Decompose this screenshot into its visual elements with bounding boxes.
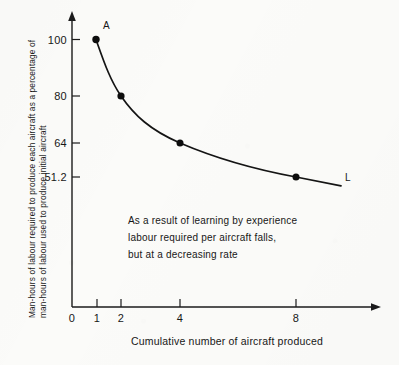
learning-curve-line: [96, 40, 341, 186]
x-tick-label-1: 1: [94, 312, 100, 324]
y-tick-label-80: 80: [54, 90, 67, 102]
learning-note-line-1: As a result of learning by experience: [128, 215, 297, 226]
y-tick-marks: [72, 40, 80, 178]
learning-note-annotation: As a result of learning by experience la…: [128, 215, 297, 260]
learning-note-line-3: but at a decreasing rate: [128, 249, 238, 260]
y-axis-title-line-2: man-hours of labour used to produce init…: [38, 125, 48, 318]
x-axis-title: Cumulative number of aircraft produced: [131, 335, 323, 347]
data-point-8-51-2: [293, 174, 300, 181]
y-axis: [68, 11, 76, 307]
learning-curve-figure: 100 80 64 51.2 0 1 2 4 8 A L As: [0, 0, 399, 365]
x-axis-arrowhead: [371, 303, 381, 311]
x-tick-label-0: 0: [69, 312, 75, 324]
learning-note-line-2: labour required per aircraft falls,: [128, 232, 276, 243]
curve-start-label-a: A: [103, 20, 110, 31]
x-tick-label-8: 8: [293, 312, 299, 324]
x-tick-marks: [97, 299, 296, 307]
y-tick-label-64: 64: [54, 137, 67, 149]
curve-end-label-l: L: [345, 172, 351, 183]
y-tick-label-100: 100: [48, 34, 67, 46]
x-tick-label-4: 4: [177, 312, 183, 324]
data-point-4-64: [177, 140, 184, 147]
data-point-1-100: [92, 36, 99, 43]
y-axis-title-line-1: Man-hours of labour required to produce …: [27, 39, 37, 318]
data-points: [92, 36, 299, 181]
x-tick-label-2: 2: [118, 312, 124, 324]
x-axis: [72, 303, 381, 311]
learning-curve-chart: 100 80 64 51.2 0 1 2 4 8 A L As: [0, 0, 399, 365]
data-point-2-80: [117, 92, 124, 99]
y-axis-arrowhead: [68, 11, 76, 21]
y-axis-title: Man-hours of labour required to produce …: [27, 39, 48, 318]
